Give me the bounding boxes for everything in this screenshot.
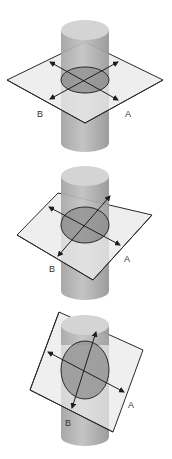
diagram-canvas: B A B A B A xyxy=(0,0,172,459)
figure-1-horizontal-section: B A xyxy=(7,20,163,152)
cylinder-top-face xyxy=(61,315,109,335)
label-a: A xyxy=(125,109,131,119)
label-b: B xyxy=(37,109,43,119)
label-b: B xyxy=(65,418,71,428)
label-a: A xyxy=(124,254,130,264)
cylinder-plane-sections-diagram: B A B A B A xyxy=(0,0,172,459)
figure-3-steep-section: B A xyxy=(30,312,143,446)
cross-section-ellipse xyxy=(61,341,109,399)
label-a: A xyxy=(128,400,134,410)
figure-2-tilted-section: B A xyxy=(17,166,152,300)
cylinder-top-face xyxy=(61,20,109,40)
cylinder-top-face xyxy=(61,166,109,186)
label-b: B xyxy=(49,264,55,274)
